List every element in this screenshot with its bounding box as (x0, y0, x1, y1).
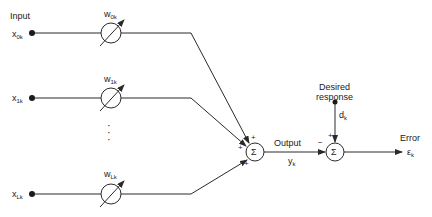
input-L-node-icon (29, 191, 35, 197)
input-0-node-icon (29, 30, 35, 36)
sum-1-sign-top: + (251, 133, 256, 143)
input-label: Input (10, 11, 30, 21)
input-1-node-icon (29, 95, 35, 101)
weight-0-label: w0k (104, 9, 117, 22)
ellipsis: ··· (107, 122, 111, 143)
desired-symbol: dk (339, 110, 347, 123)
error-label: Error (400, 133, 420, 143)
desired-label: Desiredresponse (316, 82, 353, 102)
weight-1-label: w1k (104, 74, 117, 87)
input-1-label: x1k (12, 93, 23, 106)
sum-1-sign-bottom: + (244, 159, 249, 169)
input-L-label: xLk (12, 189, 23, 202)
sum-2-plus: + (328, 131, 333, 141)
sum-1-sign-left: + (238, 143, 243, 153)
sum-2-minus: − (318, 138, 323, 148)
sum-1-symbol: Σ (251, 147, 257, 157)
output-symbol: yk (288, 156, 296, 169)
input-0-label: x0k (12, 29, 23, 42)
diagram-canvas (0, 0, 432, 217)
sum-2-symbol: Σ (331, 147, 337, 157)
weight-L-label: wLk (104, 169, 117, 182)
error-symbol: εk (407, 147, 414, 160)
output-label: Output (274, 138, 301, 148)
